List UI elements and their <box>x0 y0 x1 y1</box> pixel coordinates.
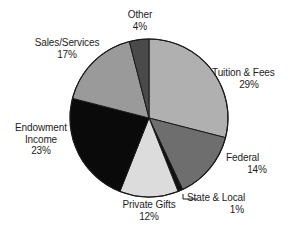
slice-label-federal-value: 14% <box>226 164 286 176</box>
slice-label-tuition-fees-name: Tuition & Fees <box>212 67 300 79</box>
pie-slices-group: Tuition & Fees 29%Federal 14%State & Loc… <box>70 39 228 197</box>
slice-label-endowment-income: Endowment Income 23% <box>2 122 80 157</box>
slice-label-federal-name: Federal <box>226 152 286 164</box>
slice-label-state-local-name: State & Local <box>187 192 285 204</box>
slice-label-sales-services-value: 17% <box>14 49 120 61</box>
slice-label-endowment-income-value: 23% <box>2 145 80 157</box>
slice-label-state-local-value: 1% <box>187 204 285 216</box>
slice-label-private-gifts-name: Private Gifts <box>106 199 192 211</box>
pie-chart-figure: Tuition & Fees 29%Federal 14%State & Loc… <box>0 0 300 234</box>
slice-label-private-gifts-value: 12% <box>106 211 192 223</box>
slice-label-endowment-income-name: Endowment <box>2 122 80 134</box>
slice-label-federal: Federal 14% <box>226 152 286 175</box>
slice-label-sales-services: Sales/Services 17% <box>14 37 120 60</box>
slice-label-endowment-income-name2: Income <box>2 134 80 146</box>
slice-label-state-local: State & Local 1% <box>187 192 285 215</box>
slice-label-other: Other 4% <box>104 9 176 32</box>
slice-label-private-gifts: Private Gifts 12% <box>106 199 192 222</box>
slice-label-other-value: 4% <box>104 21 176 33</box>
slice-label-tuition-fees-value: 29% <box>212 79 300 91</box>
slice-label-other-name: Other <box>104 9 176 21</box>
slice-label-tuition-fees: Tuition & Fees 29% <box>212 67 300 90</box>
slice-label-sales-services-name: Sales/Services <box>14 37 120 49</box>
